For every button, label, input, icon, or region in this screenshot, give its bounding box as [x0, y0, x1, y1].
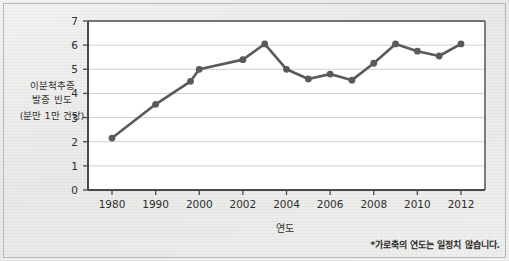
data-point: [305, 76, 312, 83]
x-axis-title: 연도: [276, 223, 294, 234]
y-tick-label: 0: [71, 184, 78, 196]
data-point: [370, 60, 377, 67]
y-axis-label-line-2: 발증 빈도: [32, 94, 71, 105]
plot-area-background: [88, 21, 485, 190]
y-axis-label-line-3: (분만 1만 건당): [20, 110, 85, 121]
chart-figure: 01234567 1980199020002002200420062008201…: [0, 0, 509, 261]
data-point: [414, 48, 421, 55]
data-point: [109, 135, 116, 142]
line-chart: 01234567 1980199020002002200420062008201…: [0, 0, 509, 261]
y-axis-ticks: 01234567: [71, 15, 88, 196]
data-point: [392, 41, 399, 48]
y-tick-label: 7: [71, 15, 78, 27]
x-tick-label: 2010: [404, 198, 431, 210]
y-tick-label: 2: [71, 136, 78, 148]
x-tick-label: 2012: [448, 198, 475, 210]
data-point: [152, 101, 159, 108]
y-tick-label: 1: [71, 160, 78, 172]
data-point: [458, 41, 465, 48]
x-tick-label: 1980: [99, 198, 126, 210]
x-tick-label: 2004: [273, 198, 300, 210]
y-tick-label: 5: [71, 63, 78, 75]
x-tick-label: 2002: [230, 198, 257, 210]
data-point: [261, 41, 268, 48]
data-point: [187, 78, 194, 85]
x-tick-label: 2008: [360, 198, 387, 210]
y-axis-label: 이분척추증 발증 빈도 (분만 1만 건당): [20, 80, 85, 121]
y-tick-label: 6: [71, 39, 78, 51]
x-axis-ticks: 198019902000200220042006200820102012: [99, 190, 475, 210]
data-point: [327, 71, 334, 78]
x-tick-label: 2000: [186, 198, 213, 210]
y-axis-label-line-1: 이분척추증: [30, 80, 75, 91]
data-point: [349, 77, 356, 84]
x-tick-label: 1990: [142, 198, 169, 210]
data-point: [196, 66, 203, 73]
data-point: [436, 53, 443, 60]
chart-footnote: *가로축의 연도는 일정치 않습니다.: [370, 239, 500, 250]
x-tick-label: 2006: [317, 198, 344, 210]
data-point: [283, 66, 290, 73]
data-point: [239, 56, 246, 63]
